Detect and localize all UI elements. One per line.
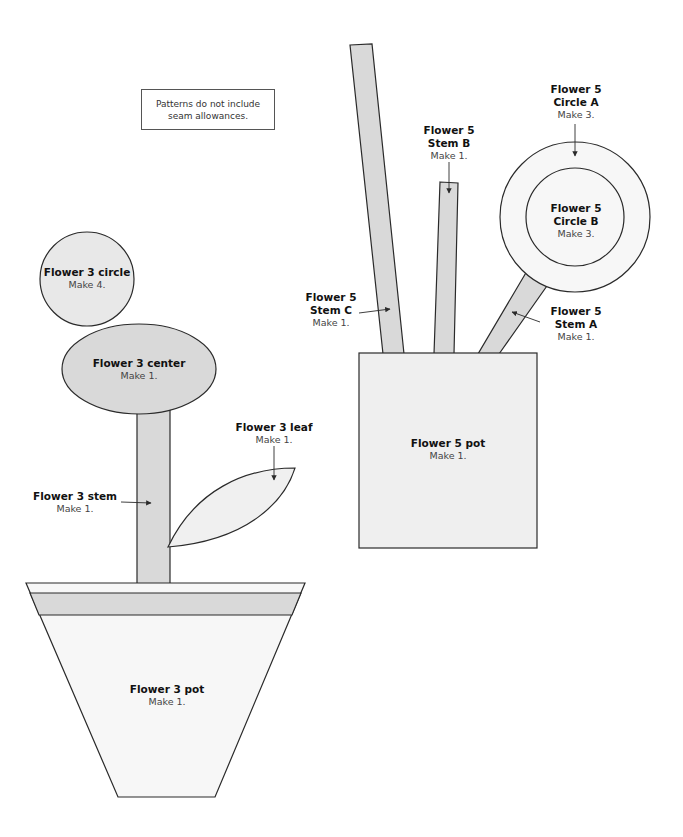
flower5-circle-b-label: Flower 5 Circle B Make 3. [551, 202, 602, 240]
flower5-stem-a-make: Make 1. [551, 331, 602, 343]
flower3-pot-make: Make 1. [130, 696, 204, 708]
note-line-2: seam allowances. [168, 110, 248, 122]
seam-allowance-note: Patterns do not include seam allowances. [141, 89, 275, 130]
flower3-circle-label: Flower 3 circle Make 4. [44, 266, 131, 291]
flower5-pot-title: Flower 5 pot [411, 437, 485, 450]
flower3-stem-label: Flower 3 stem Make 1. [33, 490, 117, 515]
flower5-circle-a-label: Flower 5 Circle A Make 3. [551, 83, 602, 121]
flower3-stem-shape [137, 405, 170, 584]
flower3-leaf-make: Make 1. [236, 434, 313, 446]
flower3-center-make: Make 1. [93, 370, 186, 382]
note-line-1: Patterns do not include [156, 98, 260, 110]
flower5-stem-b-title-1: Flower 5 [424, 124, 475, 137]
flower5-stem-a-title-2: Stem A [551, 318, 602, 331]
flower3-leaf-title: Flower 3 leaf [236, 421, 313, 434]
flower5-stem-c-shape [350, 44, 404, 354]
flower5-stem-b-label: Flower 5 Stem B Make 1. [424, 124, 475, 162]
flower5-stem-b-title-2: Stem B [424, 137, 475, 150]
flower5-group [350, 44, 650, 548]
flower5-circle-a-make: Make 3. [551, 109, 602, 121]
flower3-stem-make: Make 1. [33, 503, 117, 515]
flower5-circle-b-make: Make 3. [551, 228, 602, 240]
flower5-pot-label: Flower 5 pot Make 1. [411, 437, 485, 462]
flower5-stem-a-title-1: Flower 5 [551, 305, 602, 318]
flower5-stem-c-title-2: Stem C [306, 304, 357, 317]
flower5-stem-b-shape [434, 182, 458, 354]
flower3-stem-title: Flower 3 stem [33, 490, 117, 503]
flower3-center-title: Flower 3 center [93, 357, 186, 370]
pattern-canvas [0, 0, 683, 837]
flower3-circle-make: Make 4. [44, 279, 131, 291]
flower3-leaf-shape [168, 468, 295, 547]
flower5-circle-a-title-1: Flower 5 [551, 83, 602, 96]
flower5-circle-b-title-2: Circle B [551, 215, 602, 228]
flower3-pot-label: Flower 3 pot Make 1. [130, 683, 204, 708]
flower5-stem-a-label: Flower 5 Stem A Make 1. [551, 305, 602, 343]
flower5-stem-c-make: Make 1. [306, 317, 357, 329]
flower3-leaf-label: Flower 3 leaf Make 1. [236, 421, 313, 446]
flower5-stem-c-label: Flower 5 Stem C Make 1. [306, 291, 357, 329]
flower5-circle-a-title-2: Circle A [551, 96, 602, 109]
flower5-stem-c-title-1: Flower 5 [306, 291, 357, 304]
flower5-pot-make: Make 1. [411, 450, 485, 462]
flower3-circle-title: Flower 3 circle [44, 266, 131, 279]
flower3-center-label: Flower 3 center Make 1. [93, 357, 186, 382]
flower5-circle-b-title-1: Flower 5 [551, 202, 602, 215]
flower5-stem-b-make: Make 1. [424, 150, 475, 162]
flower3-pot-title: Flower 3 pot [130, 683, 204, 696]
flower3-pot-band-shape [30, 593, 301, 615]
